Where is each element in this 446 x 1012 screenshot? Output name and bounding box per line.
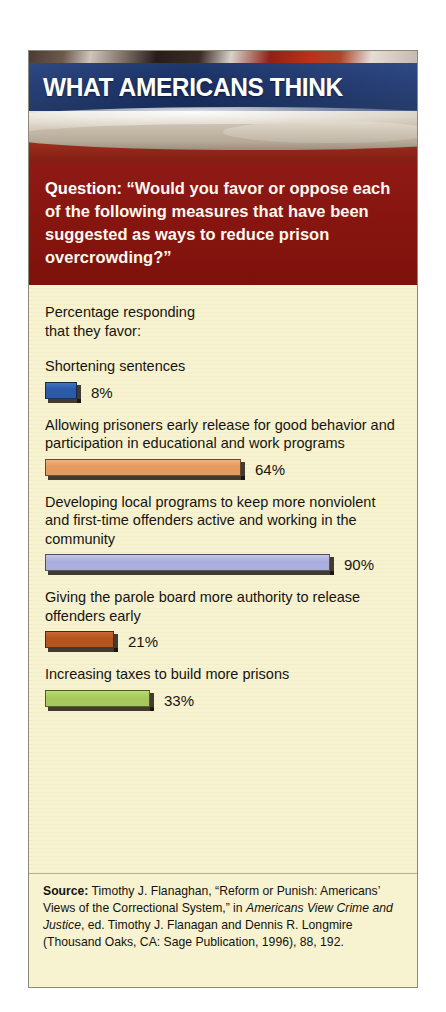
source-label: Source: — [43, 884, 88, 898]
bar-track — [45, 382, 77, 403]
page-title: WHAT AMERICANS THINK — [43, 64, 343, 110]
flag-red-stripe — [29, 137, 417, 163]
bar-group: Increasing taxes to build more prisons 3… — [45, 665, 401, 711]
bar-value-label: 64% — [250, 461, 285, 478]
bar-shadow-bottom — [48, 648, 118, 652]
bar-fill — [45, 690, 150, 707]
bar-label: Allowing prisoners early release for goo… — [45, 416, 401, 453]
bar-group: Giving the parole board more authority t… — [45, 588, 401, 652]
bar-value-label: 8% — [86, 384, 113, 401]
bar-fill — [45, 382, 77, 399]
source-line3: , ed. Timothy J. — [81, 918, 164, 932]
chart-subtitle-line2: that they favor: — [45, 323, 141, 339]
bar-fill — [45, 631, 114, 648]
bar-row: 64% — [45, 459, 401, 480]
bar-label: Giving the parole board more authority t… — [45, 588, 401, 625]
question-text: Question: “Would you favor or oppose eac… — [45, 177, 401, 269]
bar-shadow-bottom — [48, 707, 154, 711]
bar-row: 90% — [45, 554, 401, 575]
bar-row: 8% — [45, 382, 401, 403]
bar-value-label: 33% — [159, 692, 194, 709]
bar-fill — [45, 459, 241, 476]
bar-row: 33% — [45, 690, 401, 711]
infographic-card: WHAT AMERICANS THINK Question: “Would yo… — [28, 50, 418, 988]
flag-header-banner: WHAT AMERICANS THINK — [29, 51, 417, 163]
bar-label: Increasing taxes to build more prisons — [45, 665, 401, 684]
source-line5: Sage Publication, 1996), 88, 192. — [164, 935, 344, 949]
bar-row: 21% — [45, 631, 401, 652]
bar-group: Shortening sentences 8% — [45, 357, 401, 403]
bar-track — [45, 554, 330, 575]
bar-track — [45, 631, 114, 652]
question-band: Question: “Would you favor or oppose eac… — [29, 163, 417, 285]
source-citation: Source: Timothy J. Flanaghan, “Reform or… — [43, 883, 403, 951]
bar-shadow-bottom — [48, 571, 334, 575]
bar-shadow-bottom — [48, 476, 245, 480]
chart-body: Percentage responding that they favor: S… — [29, 285, 417, 873]
source-line1: Timothy J. Flanaghan, “Reform or Punish: — [88, 884, 317, 898]
bar-track — [45, 459, 241, 480]
bar-value-label: 21% — [123, 633, 158, 650]
bar-label: Developing local programs to keep more n… — [45, 493, 401, 549]
bar-group: Developing local programs to keep more n… — [45, 493, 401, 576]
bar-label: Shortening sentences — [45, 357, 401, 376]
bar-fill — [45, 554, 330, 571]
chart-subtitle: Percentage responding that they favor: — [45, 303, 401, 341]
chart-subtitle-line1: Percentage responding — [45, 304, 195, 320]
bar-track — [45, 690, 150, 711]
question-label: Question: — [45, 179, 122, 197]
bar-shadow-bottom — [48, 399, 81, 403]
bar-value-label: 90% — [339, 556, 374, 573]
bar-group: Allowing prisoners early release for goo… — [45, 416, 401, 480]
source-band: Source: Timothy J. Flanaghan, “Reform or… — [29, 873, 417, 961]
